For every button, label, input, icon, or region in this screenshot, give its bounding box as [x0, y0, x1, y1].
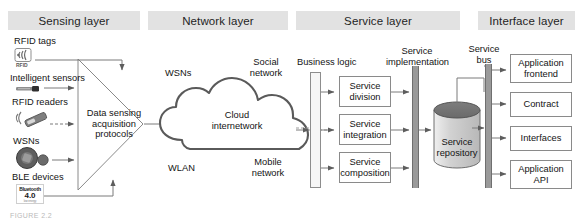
svg-text:RFID: RFID [16, 62, 28, 68]
interface-box-contract-label: Contract [523, 99, 558, 110]
network-label-social-network: Social network [240, 57, 292, 78]
network-label-wsns: WSNs [165, 68, 191, 79]
service-bus-bar [485, 64, 492, 188]
service-block-division-line1: Service [349, 81, 380, 91]
service-implementation-line1: Service implementation [386, 46, 449, 67]
service-repository-label: Service repository [429, 137, 485, 158]
service-implementation-bar [412, 66, 419, 188]
service-repository-line2: repository [437, 148, 478, 158]
service-block-integration: Service integration [339, 114, 391, 145]
cloud-label-line2: internetwork [212, 121, 263, 131]
cloud-label-line1: Cloud [225, 110, 249, 120]
device-label-ble-devices: BLE devices [12, 172, 64, 183]
bluetooth-badge-version: 4.0 [24, 192, 35, 200]
interface-box-application-frontend: Application frontend [510, 54, 572, 83]
interface-box-interfaces: Interfaces [510, 126, 572, 151]
device-label-intelligent-sensors: Intelligent sensors [10, 73, 85, 84]
service-block-division-line2: division [349, 92, 380, 102]
service-repository-cylinder [434, 102, 480, 168]
business-logic-bar [310, 72, 321, 188]
service-block-composition-line2: composition [340, 168, 390, 178]
device-label-rfid-tags: RFID tags [14, 36, 56, 47]
rfid-tag-icon: RFID [14, 48, 36, 68]
service-block-integration-line2: integration [343, 130, 386, 140]
interface-box-interfaces-label: Interfaces [521, 133, 562, 144]
network-label-mobile-network: Mobile network [243, 157, 293, 178]
funnel-label-line3: protocols [95, 129, 133, 139]
interface-box-application-api: Application API [510, 160, 572, 189]
interface-box-application-frontend-line1: Application [518, 58, 563, 68]
service-implementation-label: Service implementation [386, 46, 448, 67]
wsn-node-icon [14, 147, 52, 169]
device-label-rfid-readers: RFID readers [12, 97, 68, 108]
figure-caption: FIGURE 2.2 [10, 212, 52, 219]
funnel-label-line1: Data sensing [87, 108, 141, 118]
device-label-wsns: WSNs [13, 136, 39, 147]
funnel-label-line2: acquisition [92, 119, 136, 129]
service-block-composition: Service composition [339, 152, 391, 183]
bluetooth-badge-icon: Bluetooth 4.0 low energy [16, 184, 44, 204]
service-block-integration-line1: Service [349, 119, 380, 129]
architecture-diagram: Sensing layer Network layer Service laye… [0, 0, 578, 221]
sensor-bar-icon [16, 84, 42, 93]
funnel-label: Data sensing acquisition protocols [86, 108, 142, 140]
bluetooth-badge-tagline: low energy [24, 200, 37, 203]
interface-box-application-frontend-line2: frontend [524, 69, 558, 79]
network-label-wlan: WLAN [168, 163, 195, 174]
service-block-composition-line1: Service [349, 157, 380, 167]
rfid-reader-icon [14, 108, 50, 130]
service-block-division: Service division [339, 76, 391, 107]
connector-repository-to-bus [457, 78, 484, 104]
service-repository-line1: Service [441, 137, 472, 147]
interface-box-application-api-line2: API [533, 175, 548, 185]
interface-box-application-api-line1: Application [518, 164, 563, 174]
interface-box-contract: Contract [510, 92, 572, 117]
business-logic-label: Business logic [297, 57, 356, 68]
cloud-label: Cloud internetwork [197, 110, 277, 131]
service-bus-label: Service bus [462, 44, 506, 65]
